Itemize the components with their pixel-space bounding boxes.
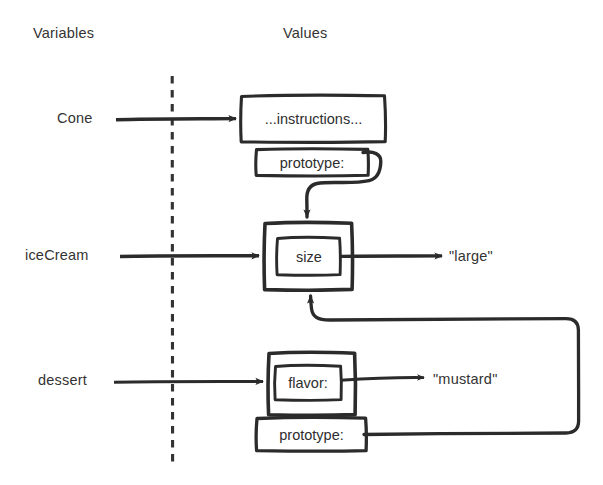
icecream-object-group [264,222,352,290]
icecream-reference-arrow [120,256,259,257]
variable-label-dessert: dessert [38,372,87,388]
dessert-prototype-box-shape [256,417,366,451]
value-mustard: "mustard" [433,371,497,387]
cone-object-group [241,95,386,176]
variable-label-cone: Cone [57,110,92,126]
cone-reference-arrow [116,119,236,120]
size-slot-box-shape [277,237,341,275]
dessert-reference-arrow [114,381,263,382]
column-header-variables: Variables [33,25,94,41]
dessert-object-group [256,352,366,451]
variable-reference-arrows [114,119,263,383]
size-to-large-arrow [341,256,442,257]
flavor-slot-box-shape [275,365,342,400]
cone-prototype-box-shape [256,149,369,176]
value-large: "large" [449,248,493,264]
column-header-values: Values [283,25,327,41]
variable-label-icecream: iceCream [25,247,89,263]
instructions-box-shape [241,95,386,142]
diagram-canvas [0,0,603,485]
prototype-chain-diagram: Variables Values Cone iceCream dessert .… [0,0,603,485]
